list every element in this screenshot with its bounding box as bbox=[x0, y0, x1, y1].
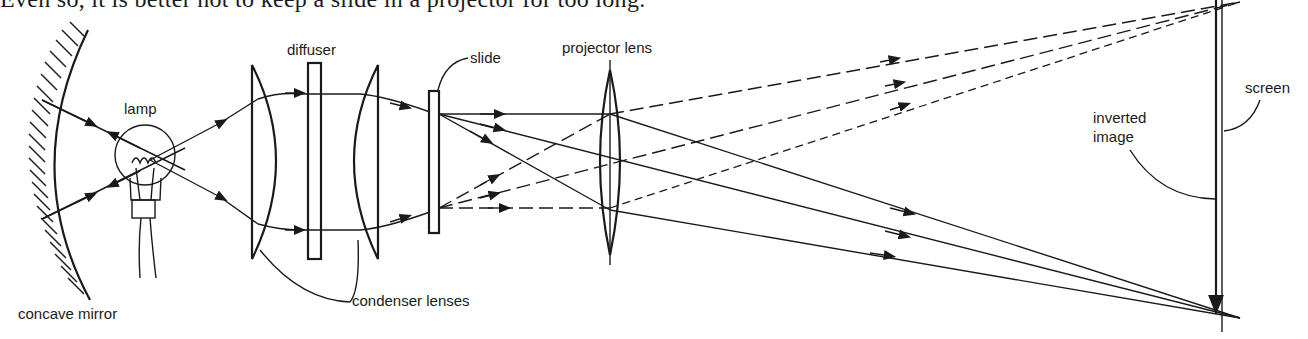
label-condenser-lenses: condenser lenses bbox=[352, 292, 470, 309]
condenser-lens-1 bbox=[252, 65, 276, 259]
slide bbox=[429, 91, 439, 233]
concave-mirror bbox=[29, 22, 90, 300]
label-inverted-image-1: inverted bbox=[1093, 109, 1146, 126]
label-lamp: lamp bbox=[124, 100, 157, 117]
label-slide: slide bbox=[470, 49, 501, 66]
label-screen: screen bbox=[1245, 79, 1290, 96]
projector-diagram: concave mirror lamp diffuser condenser l… bbox=[0, 0, 1308, 339]
label-concave-mirror: concave mirror bbox=[18, 305, 117, 322]
label-projector-lens: projector lens bbox=[562, 39, 652, 56]
lamp-icon bbox=[115, 125, 175, 278]
label-diffuser: diffuser bbox=[287, 41, 336, 58]
label-inverted-image-2: image bbox=[1093, 128, 1134, 145]
